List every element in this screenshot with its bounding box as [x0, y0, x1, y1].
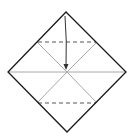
lower-left-crease [37, 72, 67, 103]
fold-arrow-icon [64, 16, 69, 70]
creases [8, 42, 126, 103]
lower-right-crease [67, 72, 97, 103]
upper-right-crease [67, 42, 97, 72]
upper-left-crease [37, 42, 67, 72]
origami-diagram [0, 0, 130, 138]
